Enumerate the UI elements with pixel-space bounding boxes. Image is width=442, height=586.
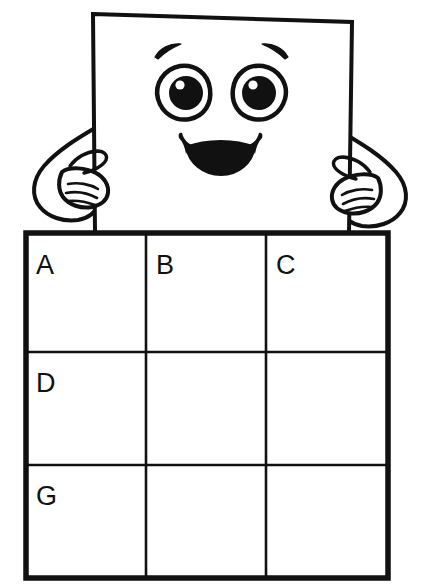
right-eye-pupil	[242, 76, 276, 110]
square-character-grid-artwork: A B C D G	[0, 0, 442, 586]
grid-cell-r3c1-label: G	[36, 481, 57, 511]
grid-background	[26, 233, 388, 578]
grid-cell-r2c1-label: D	[36, 368, 56, 398]
square-body	[93, 14, 352, 233]
grid-table: A B C D G	[26, 233, 388, 578]
right-eye	[233, 66, 286, 120]
left-eye	[157, 66, 210, 120]
right-eye-highlight	[248, 80, 257, 89]
left-eye-highlight	[175, 80, 184, 89]
left-eye-pupil	[169, 76, 203, 110]
grid-cell-r1c2-label: B	[156, 250, 174, 280]
grid-cell-r1c1-label: A	[36, 250, 54, 280]
grid-cell-r1c3-label: C	[276, 250, 296, 280]
illustration-canvas: A B C D G	[0, 0, 442, 586]
